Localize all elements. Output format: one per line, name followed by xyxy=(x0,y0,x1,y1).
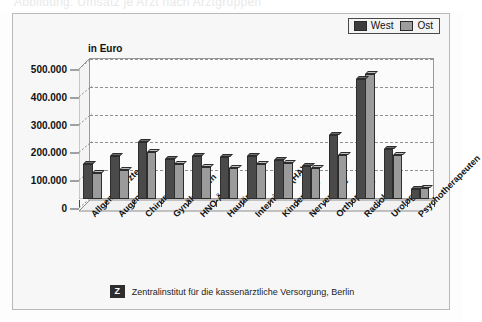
chart-legend: West Ost xyxy=(348,18,440,34)
bar-group xyxy=(329,60,348,199)
bar-group xyxy=(302,60,321,199)
y-axis-title: in Euro xyxy=(88,43,122,54)
bar-front-face xyxy=(147,152,157,199)
bar-west xyxy=(356,79,366,199)
bar-west xyxy=(138,142,148,199)
bar-ost xyxy=(338,155,348,199)
bar-front-face xyxy=(201,167,211,199)
y-tick-500000: 500.000 xyxy=(31,64,79,75)
bar-west xyxy=(329,135,339,199)
bar-group xyxy=(138,60,157,199)
bar-ost xyxy=(256,164,266,199)
chart-panel: West Ost in Euro 0100.000200.000300.0004… xyxy=(12,13,450,310)
bar-front-face xyxy=(274,160,284,199)
bar-front-face xyxy=(220,157,230,199)
bar-ost xyxy=(283,163,293,199)
bar-west xyxy=(384,149,394,199)
legend-label-west: West xyxy=(371,21,394,31)
y-axis: 0100.000200.000300.000400.000500.000 xyxy=(13,58,79,210)
legend-item-ost: Ost xyxy=(400,21,433,31)
bar-ost xyxy=(311,168,321,199)
bar-west xyxy=(192,156,202,199)
bar-front-face xyxy=(384,149,394,199)
bar-west xyxy=(83,164,93,199)
legend-swatch-ost-icon xyxy=(400,21,413,31)
bar-front-face xyxy=(119,170,129,199)
bar-group xyxy=(165,60,184,199)
legend-item-west: West xyxy=(354,21,394,31)
bar-west xyxy=(411,189,421,199)
bar-front-face xyxy=(420,188,430,199)
bar-ost xyxy=(119,170,129,199)
bar-group xyxy=(274,60,293,199)
bar-front-face xyxy=(365,74,375,199)
y-tick-100000: 100.000 xyxy=(31,175,79,186)
bar-group xyxy=(83,60,102,199)
bar-front-face xyxy=(110,156,120,199)
y-tick-400000: 400.000 xyxy=(31,91,79,102)
bar-front-face xyxy=(247,156,257,199)
cut-off-headline-text: Abbildung: Umsatz je Arzt nach Arztgrupp… xyxy=(14,0,463,9)
cut-off-headline: Abbildung: Umsatz je Arzt nach Arztgrupp… xyxy=(0,0,463,11)
bar-front-face xyxy=(311,168,321,199)
bar-west xyxy=(165,159,175,199)
bar-front-face xyxy=(329,135,339,199)
chart-footer: Z Zentralinstitut für die kassenärztlich… xyxy=(13,285,451,298)
legend-label-ost: Ost xyxy=(417,21,433,31)
bar-front-face xyxy=(165,159,175,199)
zi-logo-icon: Z xyxy=(110,285,125,298)
bar-west xyxy=(110,156,120,199)
bar-west xyxy=(220,157,230,199)
bar-front-face xyxy=(283,163,293,199)
bar-ost xyxy=(393,155,403,199)
bar-front-face xyxy=(92,173,102,199)
bars-layer-wrap xyxy=(79,58,434,210)
bar-ost xyxy=(147,152,157,199)
bar-group xyxy=(192,60,211,199)
bar-group xyxy=(411,60,430,199)
bar-group xyxy=(356,60,375,199)
bar-front-face xyxy=(83,164,93,199)
bar-group xyxy=(110,60,129,199)
bars-layer xyxy=(79,58,434,210)
bar-front-face xyxy=(393,155,403,199)
bar-ost xyxy=(174,164,184,199)
bar-west xyxy=(302,166,312,199)
bar-ost xyxy=(365,74,375,199)
bar-ost xyxy=(92,173,102,199)
footer-source-text: Zentralinstitut für die kassenärztliche … xyxy=(132,287,355,297)
bar-ost xyxy=(420,188,430,199)
bar-west xyxy=(247,156,257,199)
bar-front-face xyxy=(138,142,148,199)
x-axis-labels: AllgemeinärzteAugenärzteChirurgenGynäkol… xyxy=(13,206,476,291)
legend-swatch-west-icon xyxy=(354,21,367,31)
bar-front-face xyxy=(174,164,184,199)
y-tick-200000: 200.000 xyxy=(31,147,79,158)
bar-group xyxy=(384,60,403,199)
bar-front-face xyxy=(356,79,366,199)
bar-ost xyxy=(201,167,211,199)
bar-front-face xyxy=(338,155,348,199)
bar-front-face xyxy=(256,164,266,199)
bar-front-face xyxy=(229,168,239,199)
y-tick-300000: 300.000 xyxy=(31,119,79,130)
bar-front-face xyxy=(302,166,312,199)
bar-group xyxy=(247,60,266,199)
bar-west xyxy=(274,160,284,199)
bar-front-face xyxy=(192,156,202,199)
bar-ost xyxy=(229,168,239,199)
bar-group xyxy=(220,60,239,199)
bar-front-face xyxy=(411,189,421,199)
